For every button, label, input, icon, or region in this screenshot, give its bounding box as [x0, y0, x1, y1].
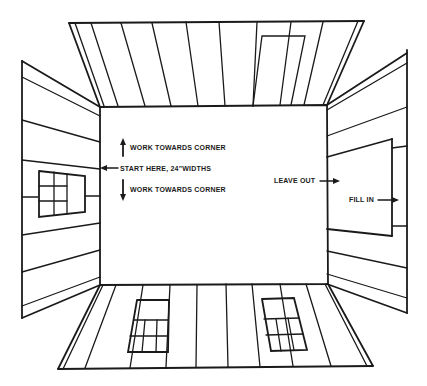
floor: [58, 284, 373, 369]
label-work-down: WORK TOWARDS CORNER: [130, 186, 226, 193]
diagram-drawing: [0, 0, 427, 386]
label-work-up: WORK TOWARDS CORNER: [130, 144, 226, 151]
room-diagram: WORK TOWARDS CORNER START HERE, 24"WIDTH…: [0, 0, 427, 386]
label-leave-out: LEAVE OUT: [274, 177, 315, 184]
right-wall: [327, 50, 407, 313]
ceiling: [69, 21, 364, 107]
label-fill-in: FILL IN: [349, 196, 374, 203]
back-wall: [100, 105, 328, 285]
left-wall: [22, 61, 100, 318]
label-start-here: START HERE, 24"WIDTHS: [120, 165, 211, 172]
